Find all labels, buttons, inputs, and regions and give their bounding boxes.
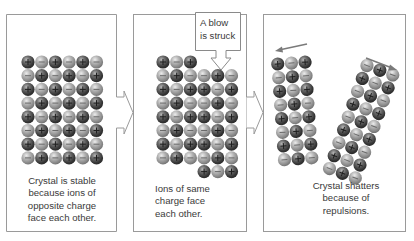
anion-icon: [21, 97, 34, 110]
anion-icon: [76, 151, 89, 164]
cation-icon: [76, 138, 89, 151]
caption-line: Ions of same: [155, 183, 245, 195]
anion-icon: [225, 124, 238, 137]
cation-icon: [184, 110, 197, 123]
cation-icon: [21, 138, 34, 151]
anion-icon: [277, 153, 291, 167]
cation-icon: [276, 139, 290, 153]
cation-icon: [225, 110, 238, 123]
shattered-caption: Crystal shatters because of repulsions.: [296, 180, 396, 217]
anion-icon: [198, 124, 211, 137]
anion-icon: [63, 110, 76, 123]
anion-icon: [184, 124, 197, 137]
cation-icon: [156, 138, 169, 151]
cation-icon: [225, 138, 238, 151]
cation-icon: [275, 112, 289, 126]
anion-icon: [21, 151, 34, 164]
cation-icon: [21, 55, 34, 68]
cation-icon: [198, 165, 211, 178]
cation-icon: [225, 83, 238, 96]
cation-icon: [344, 96, 361, 113]
cation-icon: [35, 151, 48, 164]
anion-icon: [156, 151, 169, 164]
cation-icon: [49, 110, 62, 123]
anion-icon: [303, 123, 317, 137]
anion-icon: [330, 134, 347, 151]
anion-icon: [211, 110, 224, 123]
struck-crystal-lattice: [156, 55, 238, 178]
anion-icon: [198, 97, 211, 110]
anion-icon: [211, 138, 224, 151]
caption-line: face each other.: [14, 212, 110, 224]
stable-crystal-lattice: [21, 55, 103, 164]
anion-icon: [35, 83, 48, 96]
anion-icon: [90, 110, 103, 123]
cation-icon: [300, 82, 314, 96]
cation-icon: [351, 157, 368, 174]
cation-icon: [63, 69, 76, 82]
cation-icon: [273, 84, 287, 98]
anion-icon: [272, 71, 286, 85]
anion-icon: [184, 151, 197, 164]
anion-icon: [170, 138, 183, 151]
anion-icon: [356, 144, 373, 161]
cation-icon: [198, 110, 211, 123]
anion-icon: [90, 83, 103, 96]
anion-icon: [305, 151, 319, 165]
anion-icon: [348, 126, 365, 143]
cation-icon: [90, 124, 103, 137]
anion-icon: [349, 83, 366, 100]
cation-icon: [170, 124, 183, 137]
caption-line: opposite charge: [14, 200, 110, 212]
anion-icon: [211, 83, 224, 96]
callout-line-1: A blow: [200, 17, 242, 30]
anion-icon: [49, 124, 62, 137]
anion-icon: [198, 69, 211, 82]
anion-icon: [340, 109, 357, 126]
cation-icon: [63, 151, 76, 164]
anion-icon: [211, 165, 224, 178]
anion-icon: [76, 69, 89, 82]
anion-icon: [286, 83, 300, 97]
cation-icon: [198, 83, 211, 96]
anion-icon: [49, 97, 62, 110]
anion-icon: [299, 69, 313, 83]
anion-icon: [359, 57, 376, 74]
cation-icon: [184, 138, 197, 151]
connector-arrow-2: [247, 91, 264, 134]
cation-icon: [287, 97, 301, 111]
anion-icon: [35, 138, 48, 151]
cation-icon: [370, 105, 387, 122]
anion-icon: [225, 151, 238, 164]
cation-icon: [35, 124, 48, 137]
cation-icon: [289, 124, 303, 138]
stable-caption: Crystal is stable because ions of opposi…: [14, 175, 110, 225]
anion-icon: [156, 97, 169, 110]
cation-icon: [49, 83, 62, 96]
cation-icon: [285, 70, 299, 84]
cation-icon: [184, 55, 197, 68]
anion-icon: [275, 125, 289, 139]
anion-icon: [225, 97, 238, 110]
anion-icon: [35, 55, 48, 68]
caption-line: charge face: [155, 195, 245, 207]
anion-icon: [90, 55, 103, 68]
cation-icon: [291, 152, 305, 166]
fragment-left-lattice: [271, 55, 319, 167]
cation-icon: [63, 97, 76, 110]
cation-icon: [343, 139, 360, 156]
anion-icon: [90, 138, 103, 151]
anion-icon: [225, 69, 238, 82]
anion-icon: [170, 55, 183, 68]
caption-line: Crystal shatters: [296, 180, 396, 192]
cation-icon: [371, 62, 388, 79]
cation-icon: [353, 113, 370, 130]
cation-icon: [211, 124, 224, 137]
cation-icon: [211, 97, 224, 110]
cation-icon: [21, 83, 34, 96]
cation-icon: [49, 55, 62, 68]
anion-icon: [156, 69, 169, 82]
anion-icon: [21, 69, 34, 82]
anion-icon: [35, 110, 48, 123]
anion-icon: [339, 152, 356, 169]
